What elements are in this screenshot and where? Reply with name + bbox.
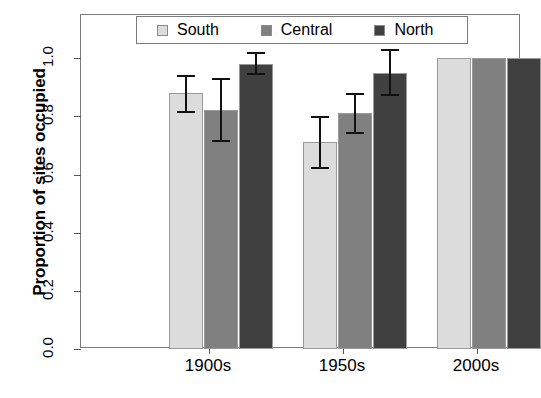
y-tick-label-0.6: 0.6 xyxy=(39,156,56,190)
bar-1950s-south xyxy=(303,142,337,349)
plot-area xyxy=(80,14,520,348)
chart-legend: South Central North xyxy=(136,16,468,44)
x-tick-label-1950s: 1950s xyxy=(319,356,365,376)
x-tick-label-1900s: 1900s xyxy=(185,356,231,376)
error-bar-cap-lower xyxy=(177,111,195,113)
legend-item-south: South xyxy=(157,21,219,39)
error-bar-cap-lower xyxy=(212,140,230,142)
error-bar-cap-upper xyxy=(311,116,329,118)
y-axis-tick-labels: 1.0 0.8 0.6 0.4 0.2 0.0 xyxy=(24,0,64,398)
y-tick-label-0.2: 0.2 xyxy=(39,273,56,307)
y-tick-mark-1.0 xyxy=(74,58,81,59)
error-bar-stem xyxy=(255,52,257,75)
y-tick-mark-0.6 xyxy=(74,175,81,176)
error-bar-cap-upper xyxy=(381,49,399,51)
bar-1950s-central xyxy=(338,113,372,349)
error-bar-cap-upper xyxy=(212,78,230,80)
y-tick-mark-0.8 xyxy=(74,116,81,117)
south-swatch-icon xyxy=(157,25,168,36)
error-bar-cap-lower xyxy=(381,94,399,96)
bar-1900s-north xyxy=(239,64,273,349)
legend-label-north: North xyxy=(394,21,433,39)
legend-label-south: South xyxy=(177,21,219,39)
y-tick-label-0.8: 0.8 xyxy=(39,98,56,132)
central-swatch-icon xyxy=(261,25,272,36)
error-bar-stem xyxy=(354,93,356,134)
legend-item-central: Central xyxy=(261,21,333,39)
error-bar-cap-lower xyxy=(346,132,364,134)
cut-off-caption xyxy=(0,388,540,398)
bar-2000s-south xyxy=(437,58,471,349)
plot-panel xyxy=(81,15,519,347)
error-bar-stem xyxy=(389,49,391,96)
y-tick-mark-0.4 xyxy=(74,233,81,234)
error-bar-cap-upper xyxy=(247,52,265,54)
y-tick-mark-0.2 xyxy=(74,291,81,292)
error-bar-stem xyxy=(220,78,222,142)
bar-1900s-central xyxy=(204,110,238,349)
x-tick-label-2000s: 2000s xyxy=(453,356,499,376)
legend-item-north: North xyxy=(374,21,433,39)
y-tick-mark-0.0 xyxy=(74,349,81,350)
y-tick-label-1.0: 1.0 xyxy=(39,40,56,74)
legend-label-central: Central xyxy=(281,21,333,39)
error-bar-cap-upper xyxy=(177,75,195,77)
error-bar-stem xyxy=(319,116,321,169)
bar-2000s-north xyxy=(507,58,541,349)
error-bar-cap-lower xyxy=(247,73,265,75)
bar-1900s-south xyxy=(169,93,203,349)
error-bar-stem xyxy=(185,75,187,113)
y-tick-label-0.4: 0.4 xyxy=(39,215,56,249)
bar-2000s-central xyxy=(472,58,506,349)
error-bar-cap-upper xyxy=(346,93,364,95)
x-axis-tick-labels: 1900s 1950s 2000s xyxy=(0,356,540,380)
north-swatch-icon xyxy=(374,25,385,36)
error-bar-cap-lower xyxy=(311,167,329,169)
bar-1950s-north xyxy=(373,73,407,349)
cut-off-caption-text xyxy=(0,388,540,398)
